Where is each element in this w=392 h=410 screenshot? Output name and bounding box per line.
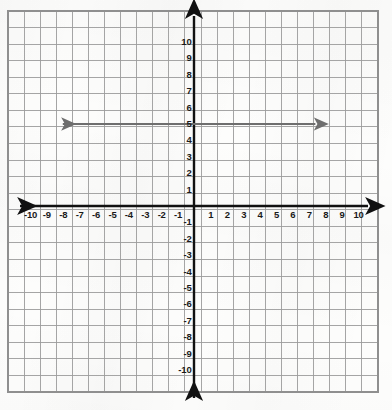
y-tick-label: -3 [183,250,191,260]
y-tick-label: 3 [186,152,191,162]
y-tick-label: -8 [183,332,191,342]
y-tick-label: 4 [186,136,191,146]
x-tick-label: -4 [125,210,133,220]
x-tick-label: 5 [274,210,279,220]
y-tick-label: 1 [186,185,191,195]
y-tick-label: 2 [186,168,191,178]
y-tick-label: 10 [181,37,191,47]
x-tick-label: 7 [307,210,312,220]
y-tick-label: -5 [183,283,191,293]
x-tick-label: 3 [241,210,246,220]
x-tick-label: 6 [290,210,295,220]
x-tick-label: -7 [76,210,84,220]
x-tick-label: -9 [43,210,51,220]
y-tick-label: -2 [183,234,191,244]
x-tick-label: 1 [208,210,213,220]
y-tick-label: -6 [183,300,191,310]
x-tick-label: -8 [59,210,67,220]
x-tick-label: 2 [225,210,230,220]
x-tick-label: 8 [323,210,328,220]
plot-surface [0,0,392,410]
y-tick-label: 6 [186,103,191,113]
y-tick-label: -4 [183,267,191,277]
y-tick-label: -10 [178,365,191,375]
x-tick-label: -10 [24,210,37,220]
y-tick-label: -9 [183,349,191,359]
x-tick-label: 4 [258,210,263,220]
x-tick-label: 9 [340,210,345,220]
x-tick-label: -2 [158,210,166,220]
y-tick-label: 7 [186,86,191,96]
y-tick-label: 9 [186,54,191,64]
x-tick-label: -6 [92,210,100,220]
y-tick-label: 5 [186,119,191,129]
x-tick-label: 10 [353,210,363,220]
y-tick-label: -1 [183,218,191,228]
y-tick-label: 8 [186,70,191,80]
coordinate-plane-graph: -10-9-8-7-6-5-4-3-2-112345678910 1098765… [0,0,392,410]
x-tick-label: -5 [108,210,116,220]
y-tick-label: -7 [183,316,191,326]
x-tick-label: -3 [141,210,149,220]
x-tick-label: -1 [174,210,182,220]
